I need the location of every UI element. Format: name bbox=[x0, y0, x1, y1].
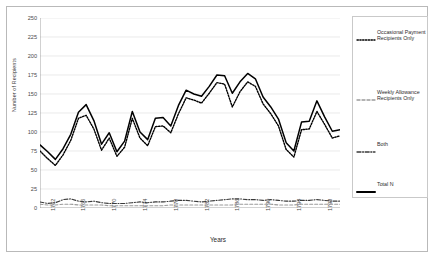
y-axis-tick: 0 bbox=[11, 205, 37, 211]
series-line bbox=[40, 204, 340, 206]
legend-key-dashdot-icon bbox=[356, 142, 376, 150]
legend-label: Both bbox=[376, 141, 388, 147]
y-axis-tick: 25 bbox=[11, 186, 37, 192]
legend-key-dotted-icon bbox=[356, 30, 376, 38]
line-chart: Number of Recipients 0255075100125150175… bbox=[0, 0, 436, 260]
y-axis-tick: 200 bbox=[11, 53, 37, 59]
legend-label: Total N bbox=[376, 181, 394, 187]
series-line bbox=[40, 199, 340, 204]
plot-area bbox=[40, 18, 340, 208]
series-line bbox=[40, 82, 340, 166]
y-axis-tick: 125 bbox=[11, 110, 37, 116]
series-line bbox=[40, 73, 340, 159]
y-axis-tick: 225 bbox=[11, 34, 37, 40]
y-axis-tick: 150 bbox=[11, 91, 37, 97]
chart-legend: Occasional Payment Recipients OnlyWeekly… bbox=[352, 16, 428, 198]
legend-label: Occasional Payment Recipients Only bbox=[376, 29, 428, 42]
y-axis-tick: 75 bbox=[11, 148, 37, 154]
legend-key-dashed-icon bbox=[356, 90, 376, 98]
y-axis-tick: 250 bbox=[11, 15, 37, 21]
y-axis-tick: 50 bbox=[11, 167, 37, 173]
legend-item: Total N bbox=[356, 181, 428, 190]
legend-key-solid-icon bbox=[356, 182, 376, 190]
x-axis-title: Years bbox=[0, 236, 436, 243]
legend-item: Both bbox=[356, 141, 428, 150]
y-axis-tick: 175 bbox=[11, 72, 37, 78]
legend-item: Weekly Allowance Recipients Only bbox=[356, 89, 428, 102]
legend-item: Occasional Payment Recipients Only bbox=[356, 29, 428, 42]
legend-label: Weekly Allowance Recipients Only bbox=[376, 89, 428, 102]
y-axis-tick: 100 bbox=[11, 129, 37, 135]
y-axis-title: Number of Recipients bbox=[11, 25, 17, 145]
